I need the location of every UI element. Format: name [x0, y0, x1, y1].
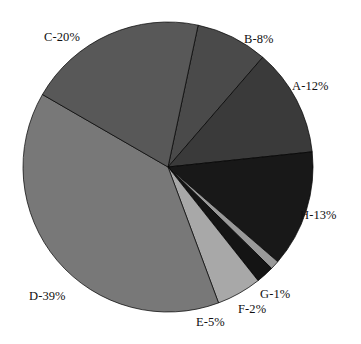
pie-label-a: A-12% [292, 80, 329, 93]
pie-label-c: C-20% [44, 31, 80, 44]
pie-label-b: B-8% [244, 33, 274, 46]
pie-chart-figure: B-8%A-12%H-13%G-1%F-2%E-5%D-39%C-20% [0, 0, 361, 344]
pie-label-h: H-13% [300, 209, 337, 222]
pie-label-d: D-39% [29, 290, 66, 303]
pie-label-e: E-5% [196, 316, 225, 329]
pie-slice-group [23, 22, 313, 312]
pie-label-f: F-2% [238, 303, 266, 316]
pie-label-g: G-1% [260, 288, 290, 301]
